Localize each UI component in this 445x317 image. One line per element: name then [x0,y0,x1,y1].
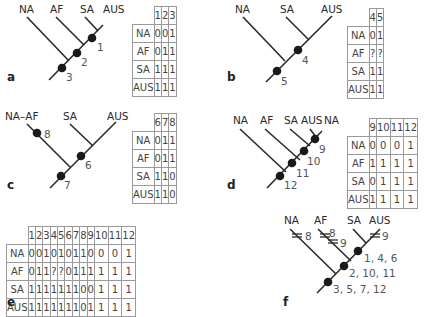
taxon-label: AF [314,214,327,226]
node-label: 2, 10, 11 [349,267,396,279]
homoplasy-label: 8 [329,227,336,239]
homoplasy-label: 9 [382,230,389,242]
node-3-5-7-12 [324,278,333,287]
node-label: 3, 5, 7, 12 [333,283,386,295]
taxon-label: AUS [369,214,391,226]
panel-label: f [283,295,288,309]
node-2-10-11 [340,262,349,271]
node-label: 1, 4, 6 [364,252,398,264]
homoplasy-label: 9 [340,237,347,249]
taxon-label: NA [284,214,300,226]
taxon-label: SA [347,214,362,226]
homoplasy-label: 8 [305,230,312,242]
node-1-4-6 [354,247,363,256]
